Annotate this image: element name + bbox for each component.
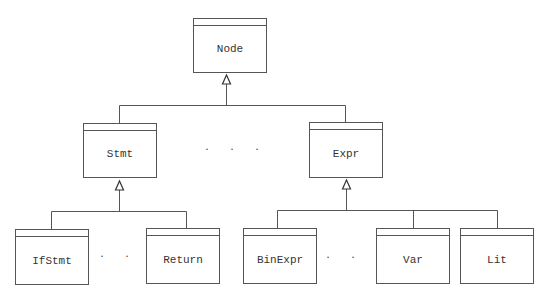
class-box-lit[interactable]: Lit — [460, 228, 534, 284]
class-box-binexpr[interactable]: BinExpr — [243, 228, 317, 284]
class-name: BinExpr — [244, 236, 316, 283]
class-name: Stmt — [84, 131, 156, 177]
expr-generalization-arrowhead-icon — [343, 180, 351, 189]
class-box-return[interactable]: Return — [146, 228, 220, 284]
class-box-var[interactable]: Var — [376, 228, 450, 284]
node-generalization-arrowhead-icon — [223, 75, 231, 84]
class-header-compartment — [461, 229, 533, 236]
class-header-compartment — [16, 230, 88, 237]
class-name: Return — [147, 236, 219, 283]
class-hierarchy-diagram: Node Stmt · · · Expr IfStmt · · · Return… — [0, 0, 549, 298]
class-box-stmt[interactable]: Stmt — [83, 123, 157, 178]
class-name: Expr — [310, 130, 382, 177]
class-name: Var — [377, 236, 449, 283]
class-name: Lit — [461, 236, 533, 283]
class-box-ifstmt[interactable]: IfStmt — [15, 229, 89, 285]
stmt-generalization-arrowhead-icon — [116, 181, 124, 190]
class-header-compartment — [147, 229, 219, 236]
class-header-compartment — [377, 229, 449, 236]
class-header-compartment — [310, 123, 382, 130]
class-header-compartment — [244, 229, 316, 236]
class-name: IfStmt — [16, 237, 88, 284]
class-box-expr[interactable]: Expr — [309, 122, 383, 178]
ellipsis-more-classes: · · · — [205, 143, 268, 155]
class-header-compartment — [194, 19, 266, 26]
class-name: Node — [194, 26, 266, 72]
class-box-node[interactable]: Node — [193, 18, 267, 73]
class-header-compartment — [84, 124, 156, 131]
